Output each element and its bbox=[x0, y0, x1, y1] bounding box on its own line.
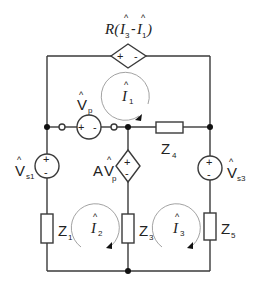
impedance-z3: Z 3 bbox=[122, 214, 154, 243]
loop-current-i3: ^ I 3 bbox=[152, 204, 200, 249]
svg-text:Z: Z bbox=[58, 222, 67, 239]
svg-text:A: A bbox=[93, 162, 103, 179]
impedance-z4: Z 4 bbox=[156, 122, 183, 160]
svg-text:Z: Z bbox=[221, 220, 230, 237]
svg-text:p: p bbox=[88, 106, 93, 115]
svg-text:3: 3 bbox=[180, 229, 185, 238]
terminal-right bbox=[111, 124, 117, 130]
top-dependent-source: + - R( I ^ 3 - I ^ 1 ) bbox=[104, 13, 152, 68]
svg-text:Z: Z bbox=[139, 222, 148, 239]
svg-text:^: ^ bbox=[124, 13, 129, 23]
svg-text:+: + bbox=[206, 156, 212, 168]
svg-text:p: p bbox=[112, 174, 117, 183]
svg-text:+: + bbox=[78, 121, 84, 133]
svg-text:I: I bbox=[121, 88, 128, 104]
vs3-source: + - ^ V s3 bbox=[198, 156, 246, 183]
svg-text:): ) bbox=[146, 21, 152, 38]
vs1-source: + - ^ V s1 bbox=[15, 153, 59, 181]
svg-text:5: 5 bbox=[231, 231, 236, 240]
svg-text:-: - bbox=[131, 21, 136, 37]
svg-text:I: I bbox=[90, 220, 97, 236]
svg-text:V: V bbox=[15, 162, 25, 179]
svg-text:^: ^ bbox=[141, 13, 146, 23]
top-source-label: R( I ^ 3 - I ^ 1 ) bbox=[104, 13, 152, 40]
svg-text:-: - bbox=[93, 121, 97, 133]
svg-text:-: - bbox=[207, 168, 211, 180]
svg-text:V: V bbox=[227, 164, 237, 181]
loop-current-i2: ^ I 2 bbox=[71, 204, 119, 249]
svg-text:+: + bbox=[43, 153, 49, 165]
svg-text:R(: R( bbox=[104, 21, 120, 38]
svg-text:+: + bbox=[117, 50, 123, 62]
svg-text:-: - bbox=[44, 166, 48, 178]
node-left bbox=[44, 124, 50, 130]
node-right bbox=[207, 124, 213, 130]
dependent-source-avp: + - A ^ V p bbox=[93, 150, 140, 183]
impedance-z5: Z 5 bbox=[204, 213, 236, 240]
svg-text:I: I bbox=[172, 220, 179, 236]
svg-text:V: V bbox=[77, 96, 87, 113]
svg-text:-: - bbox=[125, 167, 129, 179]
terminal-left bbox=[59, 124, 65, 130]
impedance-z1: Z 1 bbox=[41, 214, 73, 243]
vp-source: + - ^ V p bbox=[77, 90, 101, 139]
svg-text:3: 3 bbox=[125, 31, 130, 40]
node-center bbox=[125, 124, 131, 130]
svg-text:s1: s1 bbox=[26, 172, 35, 181]
svg-text:2: 2 bbox=[98, 229, 103, 238]
svg-text:Z: Z bbox=[161, 140, 170, 157]
svg-text:-: - bbox=[134, 50, 138, 62]
circuit-diagram: + - R( I ^ 3 - I ^ 1 ) ^ I 1 + - ^ V p Z bbox=[0, 0, 256, 292]
svg-text:4: 4 bbox=[172, 151, 177, 160]
loop-current-i1: ^ I 1 bbox=[101, 72, 149, 121]
node-bottom bbox=[125, 268, 131, 274]
svg-text:1: 1 bbox=[129, 97, 134, 106]
svg-text:s3: s3 bbox=[237, 174, 246, 183]
